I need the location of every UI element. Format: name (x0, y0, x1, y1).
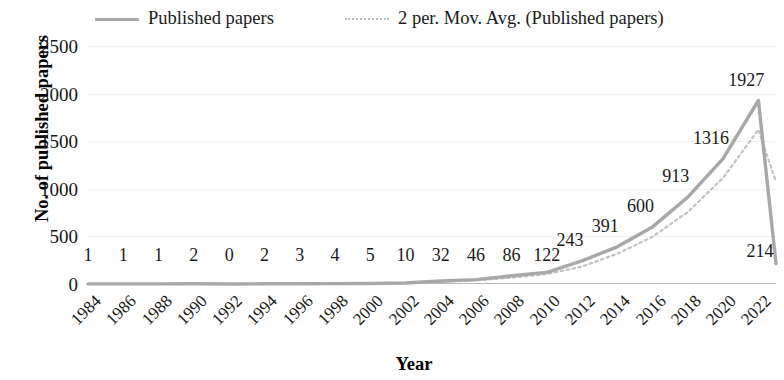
x-tick-2022: 2022 (734, 292, 774, 332)
x-tick-2002: 2002 (381, 292, 421, 332)
x-tick-2020: 2020 (699, 292, 739, 332)
x-tick-2004: 2004 (417, 292, 457, 332)
published-papers-line-chart: Published papers 2 per. Mov. Avg. (Publi… (0, 0, 784, 380)
x-tick-1988: 1988 (134, 292, 174, 332)
x-tick-2010: 2010 (522, 292, 562, 332)
x-tick-1986: 1986 (99, 292, 139, 332)
x-tick-2000: 2000 (346, 292, 386, 332)
x-tick-2018: 2018 (663, 292, 703, 332)
x-tick-2014: 2014 (593, 292, 633, 332)
x-axis-title: Year (22, 354, 784, 375)
x-tick-2012: 2012 (558, 292, 598, 332)
x-tick-2008: 2008 (487, 292, 527, 332)
x-tick-1992: 1992 (205, 292, 245, 332)
x-axis-tick-labels: 1984198619881990199219941996199820002002… (0, 0, 784, 380)
x-tick-1998: 1998 (311, 292, 351, 332)
x-tick-1984: 1984 (64, 292, 104, 332)
x-tick-1994: 1994 (240, 292, 280, 332)
x-tick-1990: 1990 (170, 292, 210, 332)
x-tick-2016: 2016 (628, 292, 668, 332)
x-tick-2006: 2006 (452, 292, 492, 332)
x-tick-1996: 1996 (275, 292, 315, 332)
